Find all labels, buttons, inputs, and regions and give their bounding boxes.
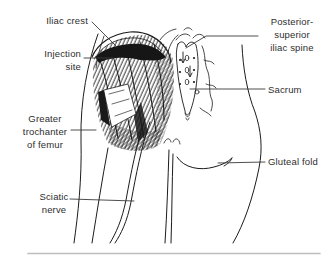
gluteal-muscle-hatching <box>93 35 174 151</box>
label-iliac-crest: Iliac crest <box>14 14 88 27</box>
label-line: Gluteal fold <box>268 155 318 168</box>
label-line: Greater <box>9 112 81 125</box>
label-line: Posterior- <box>257 15 327 28</box>
label-line: superior <box>257 28 327 41</box>
leader-line-psis <box>186 36 258 48</box>
label-line: Sacrum <box>268 83 302 96</box>
leader-line-gluteal-fold <box>218 162 265 163</box>
label-line: Sciatic <box>24 190 84 203</box>
label-gluteal-fold: Gluteal fold <box>268 155 318 168</box>
label-line: Injection <box>20 47 81 60</box>
label-line: site <box>20 60 81 73</box>
label-posterior-superior-iliac-spine: Posterior- superior iliac spine <box>257 15 327 54</box>
label-line: Iliac crest <box>14 14 88 27</box>
figure-gluteal-injection-diagram: Iliac crest Injection site Greater troch… <box>0 0 333 259</box>
label-greater-trochanter-of-femur: Greater trochanter of femur <box>9 112 81 151</box>
label-injection-site: Injection site <box>20 47 81 73</box>
leader-line-iliac-crest <box>92 22 117 47</box>
label-line: iliac spine <box>257 41 327 54</box>
label-line: trochanter <box>9 125 81 138</box>
label-line: of femur <box>9 138 81 151</box>
label-sacrum: Sacrum <box>268 83 302 96</box>
label-sciatic-nerve: Sciatic nerve <box>24 190 84 216</box>
label-line: nerve <box>24 203 84 216</box>
